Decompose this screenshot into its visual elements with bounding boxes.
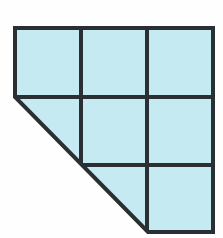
scanned-page: Rectangles 4 2 squares 100 [0,0,223,238]
figure-fill-region [15,28,213,232]
pentagon-grid-figure [0,0,223,238]
